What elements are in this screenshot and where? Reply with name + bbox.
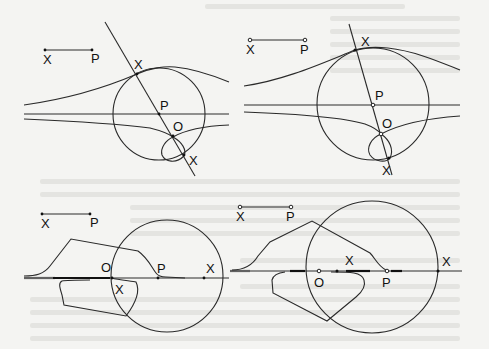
secant-line [105, 22, 195, 176]
label-o: O [173, 119, 183, 134]
secant-line [349, 24, 392, 175]
label-p: P [382, 275, 391, 290]
ruler-x-label: X [246, 42, 255, 57]
label-x-upper: X [134, 57, 143, 72]
ruler-segment: X P [246, 38, 309, 57]
panel-bottom-right: X P X O P X [230, 201, 462, 333]
label-p: P [160, 98, 169, 113]
label-x-lower: X [382, 163, 391, 178]
figure-canvas: X P X P O X X P [0, 0, 489, 349]
upper-curve [24, 67, 229, 105]
lower-polygon-path [60, 278, 138, 316]
ruler-p-label: P [286, 209, 295, 224]
label-o: O [314, 275, 324, 290]
ruler-segment: X P [41, 213, 99, 231]
label-p: P [375, 88, 384, 103]
label-x-inner: X [115, 282, 124, 297]
circle [306, 201, 438, 333]
ruler-segment: X P [236, 205, 295, 224]
ruler-p-label: P [91, 51, 100, 66]
ruler-p-label: P [300, 42, 309, 57]
label-o: O [382, 116, 392, 131]
ruler-x-label: X [41, 216, 50, 231]
label-o: O [101, 260, 111, 275]
paper-page: X P X P O X X P [0, 0, 489, 349]
upper-polygon-path [232, 221, 386, 270]
label-x-upper: X [361, 34, 370, 49]
label-p: P [157, 261, 166, 276]
label-x-left: X [345, 253, 354, 268]
ruler-x-label: X [43, 52, 52, 67]
label-x-right: X [206, 261, 215, 276]
panel-top-right: X P X P O X [244, 24, 460, 178]
panel-bottom-left: X P O X P X [24, 213, 229, 332]
circle [111, 220, 223, 332]
label-x-right: X [442, 254, 451, 269]
lower-curve [24, 119, 229, 137]
label-x-lower: X [189, 153, 198, 168]
upper-curve [244, 47, 460, 86]
ruler-x-label: X [236, 209, 245, 224]
ruler-p-label: P [90, 215, 99, 230]
ruler-segment: X P [43, 49, 100, 67]
panel-top-left: X P X P O X [24, 22, 229, 176]
